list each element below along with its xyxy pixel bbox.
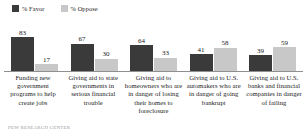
bar-oppose[interactable]: 58: [214, 22, 237, 71]
category-label: Giving aid to state governments in serio…: [64, 74, 122, 115]
bar-group: 8317: [6, 22, 63, 71]
bar-rect: [11, 37, 34, 71]
legend-swatch-oppose-icon: [61, 5, 68, 12]
legend-swatch-favor-icon: [12, 5, 19, 12]
bar-group: 3959: [244, 22, 301, 71]
bar-value-label: 33: [162, 49, 169, 57]
bar-value-label: 64: [138, 37, 145, 45]
bar-favor[interactable]: 64: [130, 22, 153, 71]
bar-favor[interactable]: 41: [190, 22, 213, 71]
chart-legend: % Favor % Oppose: [12, 3, 98, 13]
category-label: Giving aid to homeowners who are in dang…: [125, 74, 183, 115]
bar-favor[interactable]: 67: [71, 22, 94, 71]
bar-oppose[interactable]: 33: [154, 22, 177, 71]
bar-rect: [71, 44, 94, 71]
legend-label-oppose: % Oppose: [71, 5, 98, 12]
legend-item-oppose: % Oppose: [61, 3, 98, 13]
plot-area: 83176730643341583959: [0, 22, 307, 71]
bar-rect: [214, 48, 237, 71]
bar-value-label: 83: [19, 29, 26, 37]
category-label: Funding new government programs to help …: [4, 74, 62, 115]
bar-oppose[interactable]: 30: [95, 22, 118, 71]
bar-value-label: 41: [198, 46, 205, 54]
bar-value-label: 58: [222, 39, 229, 47]
bar-rect: [190, 54, 213, 71]
bar-group: 6730: [66, 22, 123, 71]
bar-value-label: 67: [79, 35, 86, 43]
bar-oppose[interactable]: 59: [273, 22, 296, 71]
chart-footnote: PEW RESEARCH CENTER: [8, 125, 70, 131]
bar-group: 4158: [185, 22, 242, 71]
bar-chart: % Favor % Oppose 83176730643341583959 Fu…: [0, 0, 307, 136]
category-label: Giving aid to U.S. banks and financial c…: [245, 74, 303, 115]
bar-value-label: 17: [43, 56, 50, 64]
bar-rect: [154, 58, 177, 71]
bar-value-label: 59: [281, 39, 288, 47]
bar-group: 6433: [125, 22, 182, 71]
bar-rect: [273, 47, 296, 71]
bar-favor[interactable]: 83: [11, 22, 34, 71]
bar-rect: [249, 55, 272, 71]
bar-oppose[interactable]: 17: [35, 22, 58, 71]
bar-rect: [35, 64, 58, 71]
category-axis-labels: Funding new government programs to help …: [0, 74, 307, 115]
bar-rect: [95, 59, 118, 71]
category-label: Giving aid to U.S. automakers who are in…: [185, 74, 243, 115]
legend-item-favor: % Favor: [12, 3, 45, 13]
bar-favor[interactable]: 39: [249, 22, 272, 71]
axis-baseline: [4, 71, 303, 72]
bar-rect: [130, 45, 153, 71]
legend-label-favor: % Favor: [22, 5, 45, 12]
bar-value-label: 39: [257, 47, 264, 55]
bar-value-label: 30: [103, 50, 110, 58]
